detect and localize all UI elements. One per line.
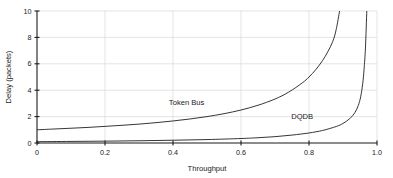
x-tick-label: 0.6 [236, 148, 246, 157]
series-label-dqdb: DQDB [291, 112, 313, 121]
chart-figure: 024681000.20.40.60.81.0 Token BusDQDB Th… [0, 0, 393, 178]
x-tick-label: 0 [35, 148, 39, 157]
x-tick-label: 0.2 [100, 148, 110, 157]
x-axis-title: Throughput [188, 164, 228, 173]
series-label-token-bus: Token Bus [169, 98, 205, 107]
x-tick-label: 0.8 [304, 148, 314, 157]
y-tick-label: 2 [28, 112, 32, 121]
y-tick-label: 8 [28, 33, 32, 42]
y-tick-label: 0 [28, 139, 32, 148]
y-axis-title: Delay (packets) [4, 50, 13, 103]
x-tick-label: 1.0 [372, 148, 382, 157]
y-tick-label: 6 [28, 59, 32, 68]
delay-vs-throughput-chart: 024681000.20.40.60.81.0 Token BusDQDB Th… [0, 0, 393, 178]
y-tick-label: 10 [24, 7, 32, 16]
chart-background [0, 0, 393, 178]
x-tick-label: 0.4 [168, 148, 178, 157]
y-tick-label: 4 [28, 86, 32, 95]
